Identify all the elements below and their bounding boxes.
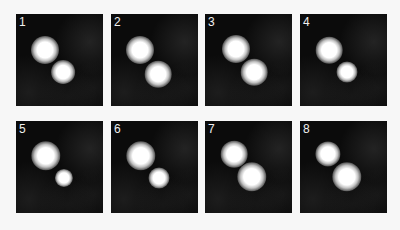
frame-label: 1 [19,16,26,28]
fluorescent-spot-1 [31,36,59,64]
fluorescent-spot-2 [149,168,170,189]
frame-panel-3: 3 [205,14,292,106]
fluorescent-spot-1 [126,36,154,64]
fluorescent-spot-2 [51,60,75,84]
fluorescent-spot-1 [316,37,343,64]
frame-label: 8 [303,123,310,135]
frame-label: 6 [114,123,121,135]
frame-label: 7 [208,123,215,135]
frame-label: 3 [208,16,215,28]
fluorescent-spot-1 [221,141,248,168]
fluorescent-spot-2 [241,59,268,86]
frame-panel-1: 1 [16,14,103,106]
frame-panel-8: 8 [300,121,387,213]
frame-panel-7: 7 [205,121,292,213]
frame-panel-6: 6 [111,121,198,213]
frame-label: 4 [303,16,310,28]
fluorescent-spot-1 [222,35,250,63]
frame-panel-2: 2 [111,14,198,106]
frame-label: 2 [114,16,121,28]
fluorescent-spot-2 [337,62,358,83]
frame-panel-4: 4 [300,14,387,106]
fluorescent-spot-2 [145,61,172,88]
frame-panel-5: 5 [16,121,103,213]
frame-label: 5 [19,123,26,135]
